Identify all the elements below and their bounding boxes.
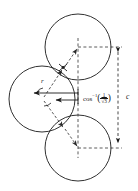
tangent-point-markers <box>59 64 67 71</box>
angle-arc <box>44 103 51 106</box>
angle-arc-group <box>37 88 51 106</box>
angle-function-text: cos <box>83 95 92 103</box>
left-circle <box>9 66 75 132</box>
angle-arc-upper <box>37 88 43 92</box>
geometry-canvas <box>0 0 138 191</box>
geometry-figure: r c cos−1(1√3) <box>0 0 138 191</box>
tangent-point-dot <box>62 66 65 69</box>
angle-measure-arrows <box>34 89 78 104</box>
radius-arrow-lower <box>44 101 63 127</box>
angle-fraction: 1√3 <box>100 93 107 105</box>
radius-label: r <box>41 78 44 85</box>
tangent-to-bottom-center-arrow <box>65 129 77 146</box>
height-label: c <box>126 93 129 101</box>
angle-close-paren: ) <box>108 93 111 103</box>
angle-fraction-denominator: √3 <box>100 99 107 104</box>
angle-label: cos−1(1√3) <box>83 93 111 105</box>
